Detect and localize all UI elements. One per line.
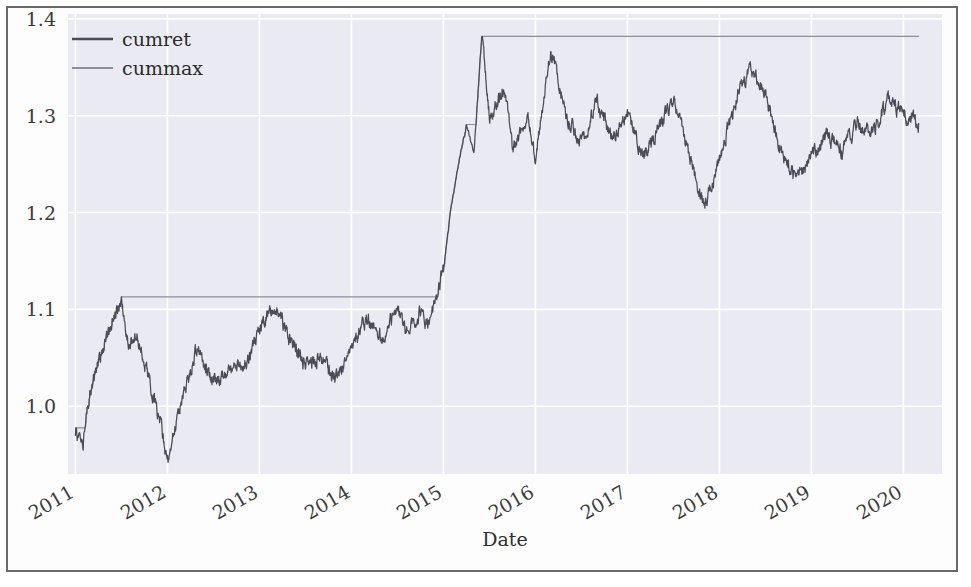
legend-label-cummax: cummax [122,57,203,79]
y-tick-1.0: 1.0 [26,395,56,417]
legend-label-cumret: cumret [122,28,191,50]
y-tick-1.4: 1.4 [26,8,56,30]
x-tick-2015: 2015 [393,480,446,523]
x-tick-2017: 2017 [577,480,630,523]
y-tick-1.1: 1.1 [26,298,56,320]
x-axis-title: Date [482,528,527,550]
y-tick-1.3: 1.3 [26,105,56,127]
chart-figure: 1.01.11.21.31.4 201120122013201420152016… [0,0,971,587]
y-tick-1.2: 1.2 [26,202,56,224]
x-tick-2016: 2016 [485,480,538,523]
x-tick-2014: 2014 [301,480,354,523]
y-axis-tick-labels: 1.01.11.21.31.4 [26,8,56,417]
x-tick-2018: 2018 [669,480,722,523]
x-tick-2011: 2011 [25,480,78,523]
x-tick-2013: 2013 [209,480,262,523]
x-tick-2020: 2020 [853,480,906,523]
x-tick-2012: 2012 [117,480,170,523]
x-axis-tick-labels: 2011201220132014201520162017201820192020 [25,480,906,523]
x-tick-2019: 2019 [761,480,814,523]
